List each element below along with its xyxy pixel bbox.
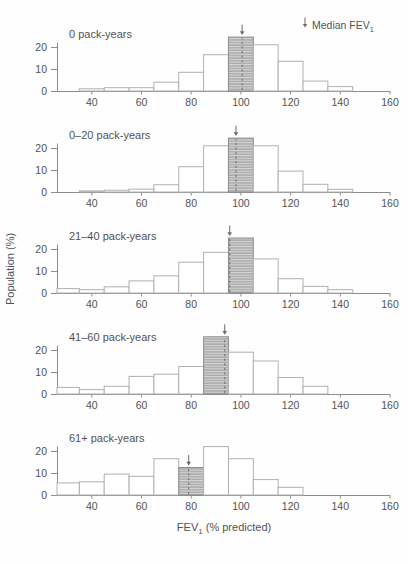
x-tick-label: 140 [332, 500, 350, 512]
y-tick-label: 0 [41, 85, 47, 97]
histogram-bar [129, 476, 154, 495]
histogram-bar [129, 189, 154, 192]
histogram-bar [253, 361, 278, 394]
x-tick-label: 100 [232, 298, 250, 310]
x-tick-label: 120 [282, 399, 300, 411]
histogram-bar [204, 252, 229, 293]
histogram-bar [228, 352, 253, 394]
y-tick-label: 20 [35, 41, 47, 53]
histogram-bar [104, 88, 129, 91]
histogram-bar [179, 262, 204, 293]
histogram-bar [278, 61, 303, 91]
histogram-bar [204, 55, 229, 91]
fev1-histogram-figure: Median FEV1010204060801001201401600 pack… [0, 0, 408, 566]
histogram-bar-median [228, 37, 253, 91]
histogram-bar [278, 171, 303, 192]
histogram-bar [303, 386, 328, 394]
x-tick-label: 140 [332, 197, 350, 209]
x-tick-label: 160 [381, 298, 399, 310]
histogram-bar [179, 72, 204, 91]
histogram-bar [104, 474, 129, 495]
histogram-bar [57, 483, 79, 495]
histogram-bar [179, 367, 204, 395]
histogram-bar [278, 487, 303, 495]
panel-label: 21–40 pack-years [69, 230, 157, 242]
panel-label: 0–20 pack-years [69, 129, 151, 141]
x-tick-label: 140 [332, 399, 350, 411]
histogram-bar [79, 89, 104, 91]
y-tick-label: 0 [41, 186, 47, 198]
y-tick-label: 20 [35, 445, 47, 457]
x-tick-label: 40 [86, 399, 98, 411]
panel-label: 41–60 pack-years [69, 331, 157, 343]
histogram-bar [154, 459, 179, 495]
histogram-bar [154, 374, 179, 394]
x-tick-label: 80 [185, 298, 197, 310]
x-tick-label: 100 [232, 399, 250, 411]
histogram-bar [253, 146, 278, 192]
histogram-bar [79, 191, 104, 192]
x-tick-label: 60 [136, 298, 148, 310]
y-axis-title: Population (%) [4, 233, 16, 305]
histogram-bar [154, 185, 179, 192]
y-tick-label: 10 [35, 63, 47, 75]
y-tick-label: 0 [41, 489, 47, 501]
histogram-bar [303, 81, 328, 91]
x-tick-label: 40 [86, 298, 98, 310]
histogram-bar [253, 259, 278, 293]
x-tick-label: 80 [185, 197, 197, 209]
x-tick-label: 80 [185, 500, 197, 512]
histogram-bar [129, 88, 154, 91]
histogram-bar [104, 386, 129, 394]
x-tick-label: 120 [282, 298, 300, 310]
x-tick-label: 40 [86, 197, 98, 209]
y-tick-label: 0 [41, 287, 47, 299]
histogram-bar [79, 390, 104, 394]
histogram-bar [104, 287, 129, 293]
panel-label: 61+ pack-years [69, 432, 145, 444]
x-tick-label: 40 [86, 500, 98, 512]
x-tick-label: 160 [381, 96, 399, 108]
fev1-histogram-chart: Median FEV1010204060801001201401600 pack… [0, 0, 408, 566]
x-tick-label: 40 [86, 96, 98, 108]
x-tick-label: 160 [381, 399, 399, 411]
histogram-bar [278, 378, 303, 395]
y-tick-label: 0 [41, 388, 47, 400]
x-tick-label: 100 [232, 500, 250, 512]
x-tick-label: 60 [136, 500, 148, 512]
histogram-bar [57, 289, 79, 293]
histogram-bar [104, 190, 129, 192]
y-tick-label: 20 [35, 243, 47, 255]
histogram-bar [303, 286, 328, 293]
x-tick-label: 60 [136, 96, 148, 108]
histogram-bar [328, 290, 353, 293]
histogram-bar [328, 189, 353, 192]
histogram-bar [179, 167, 204, 192]
histogram-bar [328, 87, 353, 91]
y-tick-label: 10 [35, 366, 47, 378]
x-tick-label: 60 [136, 197, 148, 209]
histogram-bar [253, 45, 278, 91]
x-tick-label: 100 [232, 96, 250, 108]
x-tick-label: 80 [185, 96, 197, 108]
y-tick-label: 10 [35, 265, 47, 277]
y-tick-label: 10 [35, 164, 47, 176]
histogram-bar-median [179, 468, 204, 496]
x-tick-label: 100 [232, 197, 250, 209]
y-tick-label: 20 [35, 142, 47, 154]
histogram-bar [57, 387, 79, 394]
histogram-bar [204, 447, 229, 495]
x-tick-label: 160 [381, 500, 399, 512]
x-tick-label: 140 [332, 96, 350, 108]
y-tick-label: 10 [35, 467, 47, 479]
x-tick-label: 80 [185, 399, 197, 411]
histogram-bar [228, 459, 253, 495]
x-tick-label: 120 [282, 500, 300, 512]
histogram-bar [253, 480, 278, 495]
x-tick-label: 160 [381, 197, 399, 209]
x-tick-label: 60 [136, 399, 148, 411]
histogram-bar-median [228, 238, 253, 293]
histogram-bar [303, 184, 328, 192]
histogram-bar [79, 482, 104, 495]
histogram-bar [154, 82, 179, 91]
